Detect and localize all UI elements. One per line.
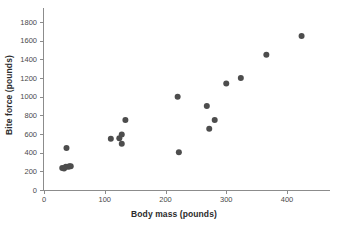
x-tick-label: 100: [98, 195, 111, 204]
y-axis: 020040060080010001200140016001800: [20, 8, 43, 195]
x-tick-label: 200: [159, 195, 172, 204]
y-tick-label: 800: [24, 111, 37, 120]
data-point: [212, 117, 218, 123]
x-tick-label: 400: [281, 195, 294, 204]
data-point-group: [59, 33, 304, 172]
data-point: [108, 136, 114, 142]
y-tick-label: 1400: [20, 55, 37, 64]
data-point: [206, 126, 212, 132]
y-tick-label: 400: [24, 148, 37, 157]
data-point: [175, 94, 181, 100]
plot-area: 020040060080010001200140016001800 010020…: [0, 0, 337, 225]
data-point: [68, 163, 74, 169]
y-tick-label: 1600: [20, 36, 37, 45]
x-tick-label: 300: [220, 195, 233, 204]
y-tick-label: 1000: [20, 92, 37, 101]
x-tick-label: 0: [42, 195, 46, 204]
y-tick-label: 200: [24, 167, 37, 176]
scatter-plot-figure: Bite force (pounds) 02004006008001000120…: [0, 0, 337, 225]
data-point: [63, 145, 69, 151]
data-point: [204, 103, 210, 109]
y-tick-group: 020040060080010001200140016001800: [20, 18, 43, 195]
data-point: [119, 131, 125, 137]
data-point: [176, 149, 182, 155]
data-point: [119, 141, 125, 147]
data-point: [238, 75, 244, 81]
x-axis-title: Body mass (pounds): [44, 209, 304, 219]
data-point: [263, 52, 269, 58]
y-tick-label: 1800: [20, 18, 37, 27]
y-tick-label: 1200: [20, 74, 37, 83]
y-tick-label: 600: [24, 130, 37, 139]
y-tick-label: 0: [33, 186, 37, 195]
data-point: [223, 81, 229, 87]
data-point: [299, 33, 305, 39]
data-point: [122, 117, 128, 123]
x-tick-group: 0100200300400: [42, 191, 293, 205]
x-axis: 0100200300400: [42, 191, 330, 205]
